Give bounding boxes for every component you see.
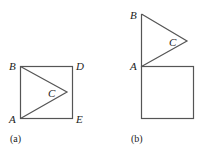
label-e-a: E xyxy=(75,113,83,125)
label-a-b: A xyxy=(129,60,137,72)
square-a xyxy=(21,67,73,119)
label-c-a: C xyxy=(48,87,56,99)
caption-a: (a) xyxy=(10,133,21,145)
label-b-b: B xyxy=(130,9,137,21)
triangle-a xyxy=(21,67,68,119)
panel-a: B D C A E (a) xyxy=(8,60,84,145)
square-b xyxy=(142,67,194,119)
caption-b: (b) xyxy=(131,133,143,145)
label-a-a: A xyxy=(8,113,16,125)
label-d-a: D xyxy=(75,60,84,72)
panel-b: B C A (b) xyxy=(129,9,194,145)
label-c-b: C xyxy=(169,36,177,48)
label-b-a: B xyxy=(9,60,16,72)
triangle-b xyxy=(142,14,188,67)
diagram-canvas: B D C A E (a) B C A (b) xyxy=(0,0,203,154)
